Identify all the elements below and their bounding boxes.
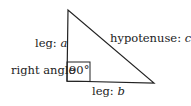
- leg-a-prefix: leg:: [35, 36, 60, 50]
- leg-a-label: leg: a: [35, 38, 67, 50]
- leg-b-label: leg: b: [92, 86, 125, 98]
- right-angle-label: right angle: [11, 65, 75, 77]
- leg-a-variable: a: [60, 36, 67, 50]
- hypotenuse-variable: c: [185, 31, 191, 45]
- leg-b-prefix: leg:: [92, 84, 117, 98]
- hypotenuse-prefix: hypotenuse:: [110, 31, 185, 45]
- leg-b-variable: b: [117, 84, 124, 98]
- angle-value-label: 90°: [69, 65, 89, 77]
- hypotenuse-label: hypotenuse: c: [110, 33, 191, 45]
